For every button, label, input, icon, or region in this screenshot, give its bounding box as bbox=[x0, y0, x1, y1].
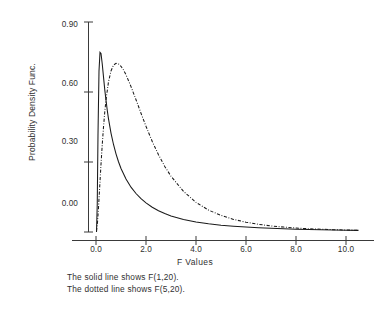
y-tick-label-060: 0.60 bbox=[44, 79, 78, 88]
figure-canvas: Probability Density Func. F Values 0.90 … bbox=[0, 0, 390, 315]
y-tick-label-090: 0.90 bbox=[44, 20, 78, 29]
x-tick-label-20: 2.0 bbox=[126, 245, 166, 254]
y-tick-label-030: 0.30 bbox=[44, 137, 78, 146]
x-tick-label-00: 0.0 bbox=[76, 245, 116, 254]
series-line-f1-20 bbox=[97, 52, 359, 232]
x-tick-label-60: 6.0 bbox=[226, 245, 266, 254]
x-tick-label-80: 8.0 bbox=[276, 245, 316, 254]
caption-line-dotted: The dotted line shows F(5,20). bbox=[67, 284, 185, 296]
caption-line-solid: The solid line shows F(1,20). bbox=[67, 272, 185, 284]
chart-plot-area bbox=[0, 0, 390, 315]
y-axis-title: Probability Density Func. bbox=[27, 37, 37, 187]
x-axis-title: F Values bbox=[0, 257, 390, 267]
x-tick-label-40: 4.0 bbox=[176, 245, 216, 254]
x-tick-label-100: 10.0 bbox=[326, 245, 366, 254]
chart-caption: The solid line shows F(1,20). The dotted… bbox=[67, 272, 185, 295]
y-tick-label-000: 0.00 bbox=[44, 199, 78, 208]
series-line-f5-20 bbox=[97, 63, 359, 231]
